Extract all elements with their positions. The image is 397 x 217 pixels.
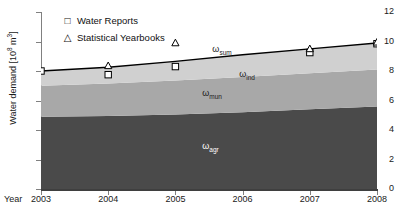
legend-item-statistical-yearbooks: △ Statistical Yearbooks (62, 31, 165, 45)
x-tick-label: 2007 (290, 195, 330, 204)
y-tick (36, 189, 41, 190)
x-tick-label: 2008 (357, 195, 397, 204)
x-tick-label: 2005 (155, 195, 195, 204)
data-point-square (41, 68, 44, 74)
data-point-square (172, 63, 178, 69)
triangle-marker-icon: △ (62, 33, 73, 43)
data-point-triangle (105, 62, 112, 69)
series-label-mun: ωmun (202, 89, 222, 101)
legend-label: Statistical Yearbooks (77, 33, 165, 43)
x-tick-label: 2006 (223, 195, 263, 204)
chart-legend: □ Water Reports △ Statistical Yearbooks (62, 14, 165, 48)
square-marker-icon: □ (62, 16, 73, 26)
data-point-triangle (172, 39, 179, 46)
y-axis-exponent-2: 3 (6, 34, 13, 38)
x-axis-title: Year (4, 195, 22, 204)
x-axis-line (41, 189, 378, 191)
series-label-agr: ωagr (202, 142, 218, 154)
y-axis-title: Water demand [108 m3] (6, 12, 18, 144)
x-tick-label: 2003 (21, 195, 61, 204)
legend-item-water-reports: □ Water Reports (62, 14, 165, 28)
y-axis-exponent: 8 (6, 47, 13, 51)
series-label-sum: ωsum (212, 45, 231, 57)
series-label-ind: ωind (239, 70, 255, 82)
legend-label: Water Reports (77, 16, 138, 26)
x-tick-label: 2004 (88, 195, 128, 204)
data-point-square (105, 71, 111, 77)
